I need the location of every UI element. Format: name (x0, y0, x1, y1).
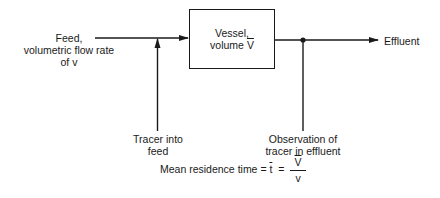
vessel-volume-symbol: V (247, 39, 254, 51)
vessel-label-line2: volume V (190, 39, 274, 51)
formula-numerator: V (290, 156, 306, 169)
vessel-volume-text: volume (210, 39, 247, 51)
effluent-label: Effluent (384, 35, 419, 47)
formula-denominator: v (290, 172, 306, 185)
vessel-label: Vessel, volume V (190, 27, 274, 51)
feed-label-line1: Feed, (20, 32, 118, 44)
fraction-bar (290, 170, 306, 171)
feed-label-line3: of v (20, 56, 118, 68)
feed-label-line2: volumetric flow rate (20, 44, 118, 56)
observation-line1: Observation of (253, 133, 353, 145)
formula-equals: = (278, 163, 284, 175)
tracer-input-line1: Tracer into (120, 133, 196, 145)
observation-label: Observation of tracer in effluent (253, 133, 353, 157)
feed-label: Feed, volumetric flow rate of v (20, 32, 118, 68)
formula-t-bar-symbol: t (269, 163, 272, 175)
formula-label: Mean residence time = (160, 163, 269, 175)
mean-residence-time-formula: Mean residence time = t = (160, 163, 284, 175)
tracer-input-label: Tracer into feed (120, 133, 196, 157)
tracer-input-line2: feed (120, 145, 196, 157)
formula-fraction: V v (290, 156, 306, 185)
vessel-label-line1: Vessel, (190, 27, 274, 39)
